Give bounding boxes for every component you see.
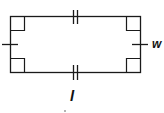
right-angle-top-right-icon [127,17,141,31]
rectangle-diagram: w l [0,0,164,113]
footnote-dot [64,110,66,112]
length-label: l [70,87,75,104]
right-angle-markers [11,17,141,73]
right-angle-top-left-icon [11,17,25,31]
width-label: w [152,37,162,51]
right-angle-bottom-left-icon [11,59,25,73]
right-angle-bottom-right-icon [127,59,141,73]
length-tick-marks [74,10,78,80]
rectangle-outline [11,17,141,73]
